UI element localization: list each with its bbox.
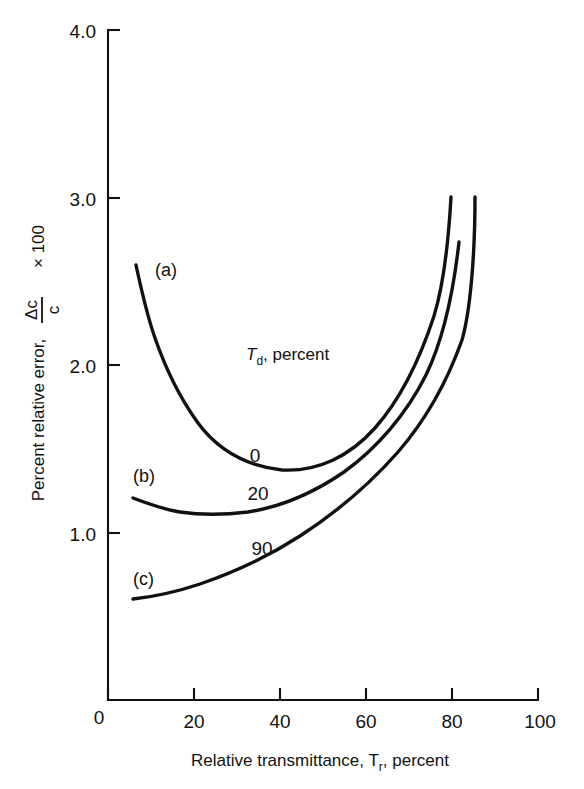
series-tag-20: 20 <box>247 483 268 504</box>
y-axis-fraction-numerator: Δc <box>22 300 41 320</box>
y-axis-fraction-denominator: c <box>44 305 63 314</box>
svg-text:Relative transmittance, Tr, pe: Relative transmittance, Tr, percent <box>191 751 449 774</box>
y-tick-label-1: 1.0 <box>70 524 96 545</box>
x-tick-label-40: 40 <box>269 711 290 732</box>
y-tick-label-3: 3.0 <box>70 189 96 210</box>
curve-tags: (a) (b) (c) <box>133 260 177 589</box>
y-axis-title-lead: Percent relative error, <box>29 339 48 502</box>
curve-tag-c: (c) <box>133 569 154 589</box>
curve-c <box>133 197 475 599</box>
axes-group <box>108 30 538 700</box>
y-axis-fraction: Δc c <box>22 297 63 323</box>
annotation-trail: , percent <box>263 345 329 364</box>
x-tick-label-0: 0 <box>94 707 105 728</box>
x-tick-label-80: 80 <box>441 711 462 732</box>
curve-tag-b: (b) <box>133 466 155 486</box>
x-axis-title-trail: , percent <box>383 751 449 770</box>
figure-container: 4.0 3.0 2.0 1.0 0 20 40 60 80 100 (a) (b… <box>0 0 584 789</box>
curves-group <box>133 197 475 599</box>
x-axis-title-lead: Relative transmittance, <box>191 751 368 770</box>
svg-text:Td, percent: Td, percent <box>246 345 330 368</box>
x-tick-marks <box>108 688 538 700</box>
curve-tag-a: (a) <box>155 260 177 280</box>
y-tick-marks <box>108 30 120 533</box>
y-tick-label-2: 2.0 <box>70 356 96 377</box>
x-axis-title-symbol: T <box>368 751 378 770</box>
y-axis-title: Percent relative error, Δc c × 100 <box>22 225 63 501</box>
annotation-td-percent: Td, percent <box>246 345 330 368</box>
series-tag-0: 0 <box>250 445 261 466</box>
x-tick-labels: 0 20 40 60 80 100 <box>94 707 556 732</box>
series-tag-90: 90 <box>251 538 272 559</box>
chart-svg: 4.0 3.0 2.0 1.0 0 20 40 60 80 100 (a) (b… <box>0 0 584 789</box>
svg-text:Percent relative error,: Percent relative error, <box>29 339 48 502</box>
annotation-subscript: d <box>256 354 263 368</box>
y-axis-title-trail: × 100 <box>29 225 48 268</box>
x-tick-label-60: 60 <box>355 711 376 732</box>
series-value-tags: 0 20 90 <box>247 445 272 559</box>
y-tick-label-4: 4.0 <box>70 21 96 42</box>
x-axis-title: Relative transmittance, Tr, percent <box>191 751 449 774</box>
curve-a <box>136 197 451 470</box>
y-tick-labels: 4.0 3.0 2.0 1.0 <box>70 21 96 545</box>
x-tick-label-100: 100 <box>524 711 556 732</box>
x-tick-label-20: 20 <box>183 711 204 732</box>
